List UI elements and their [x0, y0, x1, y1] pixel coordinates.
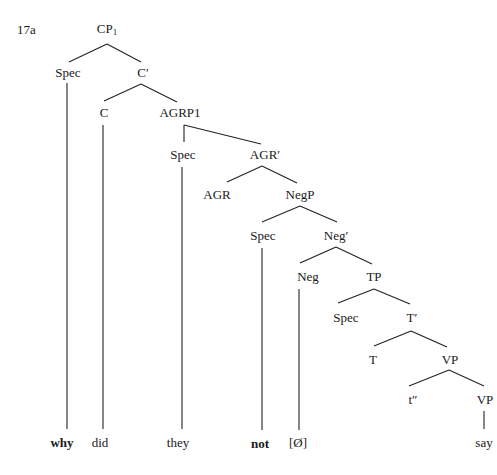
node-t-bar: T′ — [407, 311, 418, 325]
node-t: T — [369, 353, 377, 367]
node-agr: AGR — [203, 188, 230, 202]
word-not: not — [251, 437, 269, 451]
node-neg-bar: Neg′ — [324, 229, 349, 243]
word-why: why — [50, 436, 73, 450]
node-c-bar: C′ — [137, 66, 149, 80]
node-cp-spec: Spec — [55, 66, 80, 80]
node-tp: TP — [366, 270, 381, 284]
node-cp1-subscript: 1 — [113, 27, 118, 37]
node-agrp-spec: Spec — [170, 148, 195, 162]
node-trace: t″ — [408, 393, 417, 407]
node-neg: Neg — [297, 270, 319, 284]
node-negp: NegP — [286, 188, 315, 202]
word-say: say — [475, 436, 492, 450]
node-cp1: CP1 — [97, 22, 117, 39]
node-vp-lower: VP — [477, 393, 494, 407]
word-null-neg: [Ø] — [289, 436, 307, 450]
node-negp-spec: Spec — [250, 229, 275, 243]
word-they: they — [167, 436, 189, 450]
word-did: did — [92, 436, 109, 450]
node-agr-bar: AGR′ — [250, 148, 280, 162]
node-cp1-label: CP — [97, 21, 113, 36]
node-agrp1: AGRP1 — [159, 106, 200, 120]
node-tp-spec: Spec — [333, 311, 358, 325]
node-vp: VP — [442, 353, 459, 367]
example-number: 17a — [17, 22, 36, 38]
node-c: C — [100, 106, 109, 120]
